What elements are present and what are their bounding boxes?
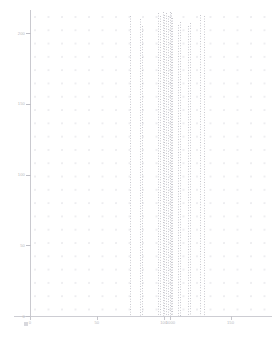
- y-tick-mark: [26, 104, 31, 105]
- peak-line: [178, 25, 179, 316]
- y-axis-line: [30, 10, 31, 317]
- peak-line: [168, 16, 169, 316]
- peak-line: [142, 26, 143, 316]
- peak-line: [200, 15, 201, 316]
- peak-line: [204, 16, 205, 316]
- peak-line: [190, 23, 191, 316]
- x-tick-label: 150: [227, 320, 234, 325]
- y-tick-mark: [26, 245, 31, 246]
- peak-line: [172, 18, 173, 316]
- origin-marker: [24, 322, 28, 326]
- peak-line: [180, 22, 181, 316]
- y-tick-label: 50: [20, 243, 25, 248]
- horizontal-scrollbar-track[interactable]: [0, 333, 276, 342]
- y-tick-mark: [26, 175, 31, 176]
- chart-canvas: 050100150200 0501001000150: [0, 0, 276, 353]
- peak-line: [130, 16, 131, 316]
- x-tick-label: 0: [29, 320, 31, 325]
- y-tick-label: 150: [18, 101, 25, 106]
- x-tick-label: 50: [94, 320, 99, 325]
- x-tick-label: 1000: [166, 320, 176, 325]
- peak-line: [160, 16, 161, 316]
- peak-line: [158, 13, 159, 316]
- peak-line: [166, 13, 167, 316]
- y-tick-label: 200: [18, 31, 25, 36]
- y-tick-mark: [26, 33, 31, 34]
- y-tick-label: 0: [23, 314, 25, 319]
- x-axis-line: [14, 316, 272, 317]
- plot-grid-area: [30, 12, 268, 315]
- y-tick-label: 100: [18, 172, 25, 177]
